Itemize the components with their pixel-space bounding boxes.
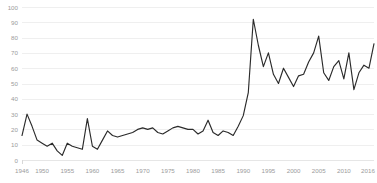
y-tick-label-80: 80 — [0, 35, 18, 41]
x-tick-label-1975: 1975 — [161, 168, 175, 174]
y-tick-label-100: 100 — [0, 5, 18, 11]
x-tick-label-1995: 1995 — [262, 168, 276, 174]
y-tick-label-30: 30 — [0, 112, 18, 118]
y-tick-label-10: 10 — [0, 142, 18, 148]
y-tick-label-40: 40 — [0, 96, 18, 102]
x-tick-label-1985: 1985 — [211, 168, 225, 174]
x-tick-label-1965: 1965 — [111, 168, 125, 174]
x-tick-label-1980: 1980 — [186, 168, 200, 174]
x-tick-label-2010: 2010 — [337, 168, 351, 174]
y-tick-label-0: 0 — [0, 158, 18, 164]
x-tick-label-2005: 2005 — [312, 168, 326, 174]
x-tick-label-1946: 1946 — [15, 168, 29, 174]
line-chart: 100 90 80 70 60 50 40 30 20 10 0 1946 19… — [0, 0, 377, 183]
x-tick-label-2016: 2016 — [361, 168, 375, 174]
y-axis-stub — [22, 160, 23, 164]
y-tick-label-60: 60 — [0, 66, 18, 72]
y-tick-label-70: 70 — [0, 50, 18, 56]
plot-area — [22, 7, 374, 160]
y-tick-label-90: 90 — [0, 20, 18, 26]
gridline-0 — [22, 160, 374, 161]
x-tick-label-1990: 1990 — [236, 168, 250, 174]
x-tick-label-1960: 1960 — [86, 168, 100, 174]
x-tick-label-1955: 1955 — [60, 168, 74, 174]
x-axis-labels: 1946 1950 1955 1960 1965 1970 1975 1980 … — [0, 168, 377, 180]
y-tick-label-20: 20 — [0, 127, 18, 133]
x-tick-label-2000: 2000 — [287, 168, 301, 174]
x-tick-label-1970: 1970 — [136, 168, 150, 174]
x-tick-label-1950: 1950 — [35, 168, 49, 174]
series-line — [22, 7, 374, 160]
y-tick-label-50: 50 — [0, 81, 18, 87]
